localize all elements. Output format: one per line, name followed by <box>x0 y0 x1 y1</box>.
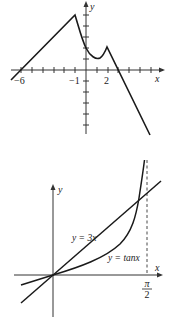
pi-denominator: 2 <box>145 289 150 300</box>
curve-y-equals-tanx <box>21 160 145 285</box>
piecewise-curve <box>11 15 150 135</box>
x-tick-label-neg1: −1 <box>69 75 80 86</box>
x-tick-label-neg6: −6 <box>14 75 25 86</box>
x-tick-label-2: 2 <box>104 75 109 86</box>
x-axis-arrow-icon <box>159 68 165 73</box>
label-y-equals-3x: y = 3x <box>71 233 97 243</box>
figure-canvas: y x −6 −1 2 y x y = 3x y = tanx π 2 <box>0 0 171 322</box>
x-axis-label: x <box>154 73 160 84</box>
pi-numerator: π <box>144 278 150 289</box>
x-axis-arrow-icon <box>157 273 163 278</box>
label-y-equals-tanx: y = tanx <box>107 253 141 263</box>
y-axis-label: y <box>89 1 95 12</box>
tan-vs-3x-graph: y x y = 3x y = tanx π 2 <box>14 160 163 317</box>
y-axis-arrow-icon <box>84 1 89 7</box>
y-axis-arrow-icon <box>51 184 56 190</box>
x-axis-label: x <box>154 262 160 273</box>
y-axis-label: y <box>57 184 63 195</box>
piecewise-graph: y x −6 −1 2 <box>11 1 165 135</box>
